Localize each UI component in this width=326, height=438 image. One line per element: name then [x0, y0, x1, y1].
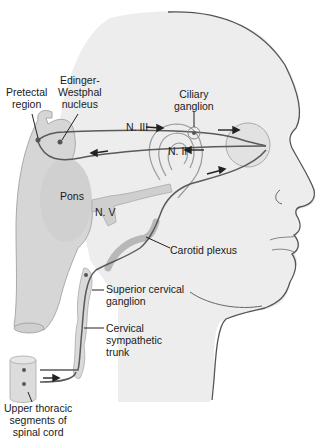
label-n5: N. V — [95, 206, 115, 218]
label-line: Pretectal — [6, 86, 47, 98]
label-line: sympathetic — [106, 334, 162, 346]
label-line: Cervical — [106, 322, 162, 334]
label-edinger-westphal: Edinger- Westphal nucleus — [58, 74, 102, 110]
label-line: Superior cervical — [106, 283, 184, 295]
label-upper-thoracic-segments: Upper thoracic segments of spinal cord — [4, 370, 72, 438]
label-line: ganglion — [174, 100, 214, 112]
label-line: trunk — [106, 346, 162, 358]
label-ciliary-ganglion: Ciliary ganglion — [174, 88, 214, 112]
ciliary-ganglion-dot — [192, 131, 196, 135]
label-pons: Pons — [60, 190, 84, 202]
label-carotid-plexus: Carotid plexus — [170, 244, 237, 256]
pretectal-dot — [36, 138, 41, 143]
spinal-tube-end — [14, 323, 44, 333]
spinal-segment-top — [10, 356, 36, 364]
label-line: nucleus — [58, 98, 102, 110]
label-line: Upper thoracic — [4, 402, 72, 414]
label-cervical-sympathetic-trunk: Cervical sympathetic trunk — [106, 322, 162, 358]
label-line: Westphal — [58, 86, 102, 98]
label-superior-cervical-ganglion: Superior cervical ganglion — [106, 283, 184, 307]
label-line: region — [6, 98, 47, 110]
label-n3: N. III — [126, 121, 148, 133]
label-line: Edinger- — [58, 74, 102, 86]
label-pretectal-region: Pretectal region — [6, 86, 47, 110]
superior-ganglion-dot — [84, 273, 88, 277]
label-n2: N. II — [168, 145, 187, 157]
label-line: segments of — [4, 414, 72, 426]
label-line: ganglion — [106, 295, 184, 307]
label-line: spinal cord — [4, 426, 72, 438]
label-line: Ciliary — [174, 88, 214, 100]
edinger-dot — [58, 140, 63, 145]
